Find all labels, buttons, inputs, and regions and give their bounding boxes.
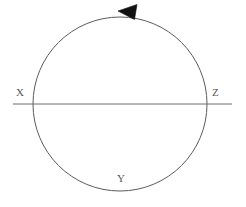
- vertex-label-z: Z: [212, 87, 219, 98]
- vertex-label-x: X: [16, 87, 24, 98]
- vertex-label-y: Y: [117, 173, 125, 184]
- diagram-canvas: X Z Y: [0, 0, 246, 207]
